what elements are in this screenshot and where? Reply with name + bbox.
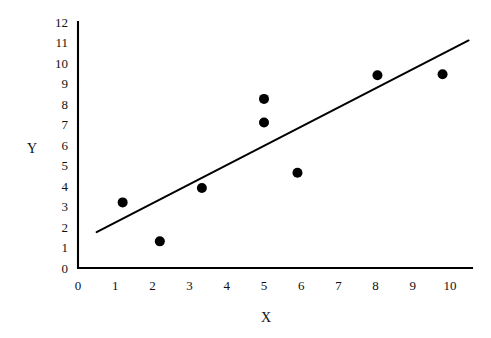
x-tick-label: 5 (261, 278, 268, 293)
data-point-marker (197, 183, 207, 193)
data-point-marker (259, 94, 269, 104)
y-tick-label: 12 (55, 15, 68, 30)
x-tick-label: 4 (224, 278, 231, 293)
y-tick-label: 9 (62, 76, 69, 91)
data-point-marker (372, 70, 382, 80)
y-axis-title: Y (27, 141, 37, 156)
x-tick-label: 0 (75, 278, 82, 293)
x-tick-label: 10 (444, 278, 457, 293)
x-tick-label: 3 (186, 278, 193, 293)
x-tick-label: 8 (372, 278, 379, 293)
data-point-marker (259, 117, 269, 127)
data-point-marker (118, 197, 128, 207)
x-tick-label: 1 (112, 278, 119, 293)
y-tick-label: 8 (62, 97, 69, 112)
data-point-marker (438, 69, 448, 79)
chart-canvas: 0123456789101112 012345678910 Y X (0, 0, 491, 338)
x-tick-label: 7 (335, 278, 342, 293)
y-tick-label: 11 (55, 35, 68, 50)
y-tick-label: 6 (62, 138, 69, 153)
data-point-marker (292, 168, 302, 178)
y-tick-label: 2 (62, 220, 69, 235)
y-tick-label: 10 (55, 56, 68, 71)
y-tick-label: 7 (62, 117, 69, 132)
y-axis-title-label: Y (27, 141, 37, 156)
x-axis-title-label: X (261, 310, 271, 325)
y-tick-label: 3 (62, 199, 69, 214)
y-tick-label: 0 (62, 261, 69, 276)
y-tick-label: 1 (62, 240, 69, 255)
x-tick-label: 6 (298, 278, 305, 293)
data-point-marker (155, 236, 165, 246)
x-axis-title: X (261, 310, 271, 325)
scatter-plot-figure: 0123456789101112 012345678910 Y X (0, 0, 491, 338)
x-tick-label: 2 (149, 278, 156, 293)
y-tick-label: 5 (62, 158, 69, 173)
y-tick-label: 4 (62, 179, 69, 194)
plot-background (0, 0, 491, 338)
x-tick-label: 9 (410, 278, 417, 293)
